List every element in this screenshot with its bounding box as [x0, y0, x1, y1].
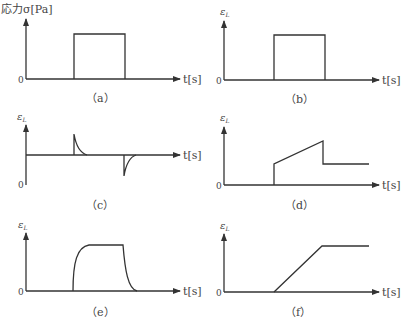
panel-e: εL 0 t[s] （e）: [18, 219, 202, 319]
y-axis-label: 応力σ[Pa]: [1, 2, 53, 16]
y-axis-label: εL: [17, 111, 26, 123]
x-axis-label: t[s]: [183, 73, 202, 86]
y-axis-label: εL: [220, 6, 229, 18]
strain-curve: [274, 141, 369, 185]
caption-a: （a）: [86, 92, 115, 105]
origin-label: 0: [18, 75, 24, 85]
y-axis-label: εL: [220, 112, 229, 124]
caption-e: （e）: [86, 306, 115, 319]
panel-d: εL 0 t[s] （d）: [216, 112, 401, 212]
origin-label: 0: [216, 288, 222, 298]
origin-label: 0: [216, 181, 222, 191]
x-axis-label: t[s]: [183, 149, 202, 162]
strain-spike-down: [124, 155, 136, 176]
caption-b: （b）: [285, 93, 314, 106]
panel-c: εL 0 t[s] （c）: [17, 111, 202, 212]
strain-curve: [73, 245, 137, 291]
panel-a: 応力σ[Pa] 0 t[s] （a）: [1, 2, 202, 105]
x-axis-label: t[s]: [382, 179, 401, 192]
figure-canvas: 応力σ[Pa] 0 t[s] （a） εL 0 t[s] （b） εL 0 t[…: [0, 0, 406, 324]
strain-spike-up: [74, 134, 87, 155]
panel-b: εL 0 t[s] （b）: [216, 6, 401, 106]
y-axis-label: εL: [18, 219, 27, 231]
stress-pulse: [74, 34, 125, 79]
caption-d: （d）: [285, 199, 314, 212]
x-axis-label: t[s]: [382, 286, 401, 299]
caption-c: （c）: [86, 199, 114, 212]
strain-curve: [274, 246, 369, 292]
y-axis-label: εL: [220, 220, 229, 232]
x-axis-label: t[s]: [382, 74, 401, 87]
origin-label: 0: [18, 180, 24, 190]
origin-label: 0: [216, 76, 222, 86]
origin-label: 0: [18, 287, 24, 297]
x-axis-label: t[s]: [183, 285, 202, 298]
caption-f: （f）: [285, 306, 311, 319]
panel-f: εL 0 t[s] （f）: [216, 220, 401, 319]
strain-curve: [274, 35, 325, 80]
